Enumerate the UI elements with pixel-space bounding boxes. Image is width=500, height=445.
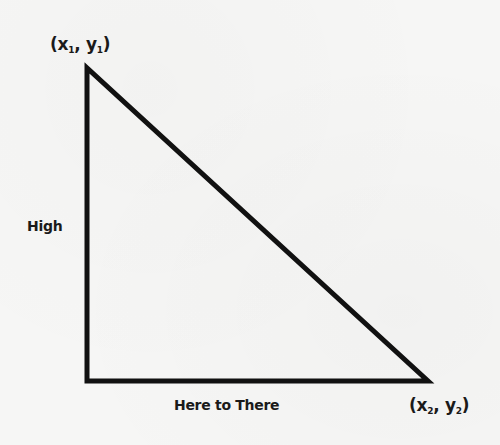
side-label-horizontal: Here to There xyxy=(174,397,279,413)
diagram-canvas: (x1, y1) High Here to There (x2, y2) xyxy=(0,0,500,445)
triangle-outline xyxy=(87,68,428,381)
right-triangle xyxy=(0,0,500,445)
vertex-label-bottom-right: (x2, y2) xyxy=(409,395,469,416)
side-label-vertical: High xyxy=(27,218,62,234)
vertex-label-top: (x1, y1) xyxy=(50,34,110,55)
